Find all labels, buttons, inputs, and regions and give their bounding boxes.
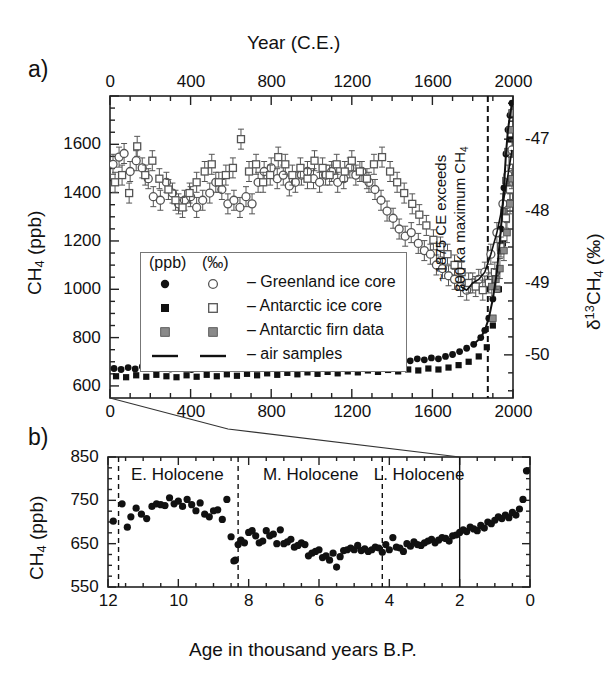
panel-a-bottom-tick-800: 800 (257, 402, 285, 422)
panel-b-epoch-1: E. Holocene (131, 465, 224, 485)
panel-a-bottom-tick-400: 400 (177, 402, 205, 422)
legend-markers (141, 299, 241, 319)
panel-b-left-axis-title: CH4 (ppb) (26, 496, 49, 580)
legend-row: – air samples (141, 347, 406, 367)
panel-a-left-tick-1200: 1200 (63, 231, 101, 251)
panel-a-top-axis-title: Year (C.E.) (247, 32, 340, 54)
panel-a-top-tick-1600: 1600 (414, 72, 452, 92)
legend-markers (141, 323, 241, 343)
panel-a-right-tick--49: -49 (525, 273, 550, 293)
panel-b-x-tick-6: 6 (314, 591, 323, 611)
panel-a-right-axis-title: δ13CH4 (‰) (582, 233, 606, 330)
legend-row: – Antarctic ice core (141, 299, 406, 319)
panel-b-left-tick-650: 650 (70, 534, 98, 554)
panel-b-left-tick-550: 550 (70, 577, 98, 597)
panel-b-x-tick-4: 4 (385, 591, 394, 611)
legend-label: – Antarctic ice core (247, 297, 382, 315)
panel-a-left-tick-600: 600 (72, 376, 100, 396)
panel-a-top-tick-400: 400 (177, 72, 205, 92)
legend-markers (141, 347, 241, 367)
panel-a-annotation-line2: 800 ka maximum CH4 (451, 146, 470, 292)
panel-a-top-tick-2000: 2000 (495, 72, 533, 92)
panel-a-left-tick-1400: 1400 (63, 183, 101, 203)
panel-a-bottom-tick-1200: 1200 (333, 402, 371, 422)
panel-a-left-tick-1600: 1600 (63, 134, 101, 154)
panel-b-x-tick-12: 12 (99, 591, 118, 611)
panel-b-x-tick-10: 10 (169, 591, 188, 611)
panel-a-right-tick--50: -50 (525, 345, 550, 365)
panel-a-top-tick-800: 800 (257, 72, 285, 92)
panel-a-bottom-tick-1600: 1600 (414, 402, 452, 422)
panel-a-annotation-line1: ~1875 CE exceeds (432, 155, 449, 282)
legend-label: – air samples (247, 345, 342, 363)
panel-a-bottom-tick-0: 0 (105, 402, 114, 422)
panel-a-top-tick-0: 0 (105, 72, 114, 92)
panel-a-right-tick--48: -48 (525, 201, 550, 221)
panel-a-letter: a) (28, 56, 48, 83)
panel-b-x-tick-2: 2 (455, 591, 464, 611)
panel-a-left-tick-800: 800 (72, 328, 100, 348)
legend-markers (141, 275, 241, 295)
panel-b-letter: b) (28, 424, 48, 451)
panel-b-x-tick-8: 8 (244, 591, 253, 611)
panel-b-epoch-2: M. Holocene (263, 465, 358, 485)
legend-label: – Greenland ice core (247, 273, 396, 291)
panel-a-top-tick-1200: 1200 (333, 72, 371, 92)
panel-a-right-tick--47: -47 (525, 129, 550, 149)
legend-row: – Greenland ice core (141, 275, 406, 295)
panel-a-left-tick-1000: 1000 (63, 279, 101, 299)
legend-header-ppb: (ppb) (149, 254, 186, 272)
legend-row: – Antarctic firn data (141, 323, 406, 343)
legend-header-permil: (‰) (202, 254, 229, 272)
panel-b-x-tick-0: 0 (525, 591, 534, 611)
panel-a-legend: (ppb) (‰) – Greenland ice core– Antarcti… (140, 252, 407, 372)
panel-a-left-axis-title: CH4 (ppb) (24, 211, 47, 295)
panel-b-x-axis-title: Age in thousand years B.P. (189, 639, 417, 661)
panel-b-epoch-3: L. Holocene (374, 465, 465, 485)
legend-label: – Antarctic firn data (247, 321, 384, 339)
panel-b-left-tick-850: 850 (70, 447, 98, 467)
panel-a-bottom-tick-2000: 2000 (495, 402, 533, 422)
panel-b-left-tick-750: 750 (70, 490, 98, 510)
